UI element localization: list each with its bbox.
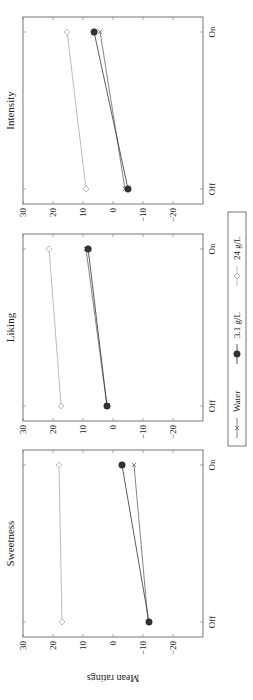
panel-frame [23, 17, 203, 204]
y-tick-label: 30 [18, 208, 28, 218]
data-point [104, 403, 110, 409]
y-axis-label: Mean ratings [87, 673, 140, 684]
y-tick-label: −20 [168, 208, 178, 223]
y-tick-label: −20 [168, 425, 178, 440]
data-point [91, 29, 97, 35]
series-water [84, 247, 109, 408]
series-3-1-g-l [119, 462, 152, 625]
y-tick-label: −10 [138, 641, 148, 656]
series-line [100, 32, 125, 189]
y-tick-label: 10 [78, 641, 88, 651]
data-point [59, 619, 65, 625]
chart-svg: Sweetness3020100−10−20OffOnLiking3020100… [0, 0, 253, 700]
y-tick-label: −20 [168, 641, 178, 656]
y-tick-label: 0 [108, 425, 118, 430]
data-point [85, 246, 91, 252]
data-point [46, 246, 52, 252]
series-line [49, 249, 61, 406]
y-tick-label: 20 [48, 425, 58, 435]
series-3-1-g-l [91, 29, 131, 192]
series-line [59, 465, 62, 622]
series-line [94, 32, 128, 189]
panel-intensity: Intensity3020100−10−20OffOn [4, 17, 217, 222]
y-tick-label: 30 [18, 425, 28, 435]
series-water [132, 463, 151, 624]
series-24-g-l [46, 246, 64, 409]
data-point [58, 403, 64, 409]
y-tick-label: 0 [108, 208, 118, 213]
data-point [64, 29, 70, 35]
legend: Water3.1 g/L24 g/L [228, 212, 246, 446]
panels-group: Sweetness3020100−10−20OffOnLiking3020100… [4, 17, 217, 655]
x-tick-label: On [207, 459, 217, 470]
legend-label: 24 g/L [232, 236, 242, 260]
chart-figure: Sweetness3020100−10−20OffOnLiking3020100… [0, 0, 253, 700]
panel-liking: Liking3020100−10−20OffOn [4, 234, 217, 439]
y-tick-label: −10 [138, 208, 148, 223]
panel-title: Liking [4, 312, 16, 342]
x-tick-label: Off [207, 183, 217, 195]
series-line [67, 32, 86, 189]
series-24-g-l [56, 462, 65, 625]
series-line [122, 465, 149, 622]
x-tick-label: Off [207, 400, 217, 412]
data-point [146, 619, 152, 625]
data-point [83, 186, 89, 192]
panel-sweetness: Sweetness3020100−10−20OffOn [4, 450, 217, 655]
series-line [88, 249, 107, 406]
legend-label: 3.1 g/L [232, 312, 242, 338]
series-line [134, 465, 148, 622]
x-tick-label: On [207, 243, 217, 254]
y-tick-label: 10 [78, 208, 88, 218]
legend-label: Water [232, 391, 242, 412]
x-tick-label: On [207, 26, 217, 37]
data-point [56, 462, 62, 468]
x-tick-label: Off [207, 616, 217, 628]
data-point [119, 462, 125, 468]
y-tick-label: −10 [138, 425, 148, 440]
legend-marker [234, 351, 240, 357]
y-tick-label: 20 [48, 208, 58, 218]
series-water [98, 30, 127, 191]
y-tick-label: 30 [18, 641, 28, 651]
y-tick-label: 20 [48, 641, 58, 651]
panel-title: Intensity [4, 91, 16, 130]
panel-frame [23, 450, 203, 637]
data-point [125, 186, 131, 192]
panel-title: Sweetness [4, 521, 16, 567]
y-tick-label: 10 [78, 425, 88, 435]
series-24-g-l [64, 29, 89, 192]
y-tick-label: 0 [108, 641, 118, 646]
